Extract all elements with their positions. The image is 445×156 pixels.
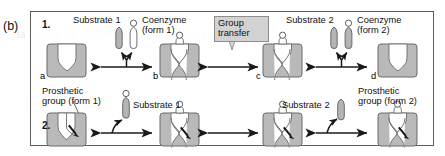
node-letter-c: c [256, 71, 261, 81]
label-coenzyme-form1-line2: (form 1) [142, 25, 175, 35]
substrate-2-glyph-row2 [338, 99, 345, 120]
substrate-2-exit-arrow [327, 119, 337, 133]
group-transfer-pointer [229, 41, 235, 50]
label-substrate-2-row2: Substrate 2 [282, 100, 330, 110]
row-number-2: 2. [42, 120, 50, 131]
node-letter-b: b [153, 71, 158, 81]
group-transfer-line2: transfer [218, 28, 264, 38]
label-prosthetic-group-form1-line1: Prosthetic [42, 86, 83, 96]
substrate-1-entry-arrow [112, 120, 122, 133]
enzyme-d [378, 44, 417, 77]
enzyme-a [47, 44, 86, 77]
group-transfer-line1: Group [218, 18, 264, 28]
label-prosthetic-group-form1-line2: group (form 1) [42, 96, 101, 106]
label-substrate-2-row1: Substrate 2 [286, 15, 334, 25]
row-number-1: 1. [42, 19, 50, 30]
reaction-feed-arrows-right [337, 53, 347, 68]
enzyme-b [160, 32, 199, 80]
label-coenzyme-form1-line1: Coenzyme [142, 15, 186, 25]
coenzyme-form1-glyph [130, 20, 137, 49]
label-prosthetic-group-form2-line2: group (form 2) [358, 96, 417, 106]
label-substrate-1-row1: Substrate 1 [73, 15, 121, 25]
coenzyme-form2-glyph [345, 20, 352, 49]
substrate-1-glyph-row1 [116, 27, 122, 49]
node-letter-d: d [371, 71, 376, 81]
group-transfer-callout: Group transfer [214, 16, 269, 42]
substrate-1-glyph-row2 [123, 90, 130, 118]
label-coenzyme-form2-line1: Coenzyme [357, 15, 401, 25]
reaction-feed-arrows-left [122, 53, 132, 68]
enzyme-row2-1 [47, 113, 86, 146]
label-prosthetic-group-form2-line1: Prosthetic [358, 86, 399, 96]
label-substrate-1-row2: Substrate 1 [133, 100, 181, 110]
enzyme-row2-4 [378, 101, 417, 147]
substrate-2-glyph-row1 [331, 27, 337, 49]
node-letter-a: a [40, 71, 46, 81]
label-coenzyme-form2-line2: (form 2) [357, 25, 390, 35]
